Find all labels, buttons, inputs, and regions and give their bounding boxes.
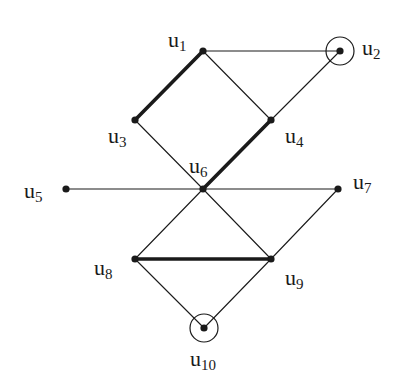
node-u6	[199, 185, 206, 192]
edge-u4-u6-bold	[203, 120, 271, 189]
node-label-u5: u5	[24, 178, 43, 205]
node-label-u1: u1	[168, 27, 187, 54]
edge-u1-u4	[203, 51, 271, 120]
node-u7	[334, 185, 341, 192]
edge-u7-u9	[271, 189, 338, 259]
node-u8	[131, 255, 138, 262]
node-u1	[199, 47, 206, 54]
node-label-u8: u8	[94, 255, 113, 282]
node-label-u2: u2	[362, 35, 381, 62]
node-label-u3: u3	[108, 123, 127, 150]
node-label-u7: u7	[353, 169, 372, 196]
edge-u6-u9	[203, 189, 271, 259]
node-label-u9: u9	[285, 265, 304, 292]
node-u2	[336, 47, 343, 54]
node-label-u4: u4	[285, 123, 304, 150]
edge-u6-u8	[135, 189, 203, 259]
edge-u2-u4	[271, 51, 340, 120]
edge-u1-u3-bold	[135, 51, 203, 120]
node-u5	[62, 185, 69, 192]
node-label-u10: u10	[190, 346, 216, 373]
node-u10	[200, 324, 207, 331]
node-label-u6: u6	[189, 153, 208, 180]
node-u9	[267, 255, 274, 262]
edge-u8-u10	[135, 259, 204, 328]
node-u3	[131, 116, 138, 123]
node-u4	[267, 116, 274, 123]
graph-svg: u1u2u3u4u5u6u7u8u9u10	[0, 0, 403, 384]
graph-diagram: u1u2u3u4u5u6u7u8u9u10	[0, 0, 403, 384]
